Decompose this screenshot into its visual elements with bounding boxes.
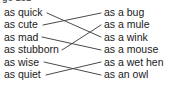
right-column: as a bug as a mule as a wink as a mouse … xyxy=(104,6,181,80)
left-item-stubborn[interactable]: as stubborn xyxy=(4,43,66,55)
right-item-wet-hen[interactable]: as a wet hen xyxy=(104,56,181,68)
right-item-wink[interactable]: as a wink xyxy=(104,31,181,43)
right-item-owl[interactable]: as an owl xyxy=(104,68,181,80)
right-item-bug[interactable]: as a bug xyxy=(104,6,181,18)
left-column: as quick as cute as mad as stubborn as w… xyxy=(4,6,66,80)
left-item-quiet[interactable]: as quiet xyxy=(4,68,66,80)
right-item-mouse[interactable]: as a mouse xyxy=(104,43,181,55)
clipped-page-heading: ge 151 xyxy=(2,0,31,3)
left-item-quick[interactable]: as quick xyxy=(4,6,66,18)
left-item-wise[interactable]: as wise xyxy=(4,56,66,68)
left-item-mad[interactable]: as mad xyxy=(4,31,66,43)
matching-worksheet: ge 151 as quick as cute as mad as stubbo… xyxy=(0,0,181,89)
right-item-mule[interactable]: as a mule xyxy=(104,18,181,30)
left-item-cute[interactable]: as cute xyxy=(4,18,66,30)
connector-stubborn-to-mule xyxy=(62,25,101,50)
